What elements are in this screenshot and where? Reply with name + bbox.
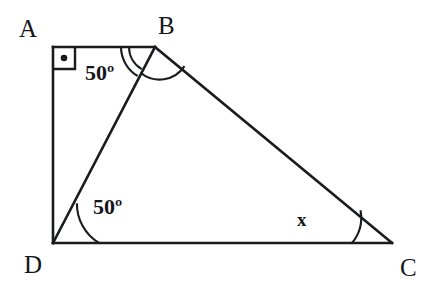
angle-arc-dbc (141, 66, 185, 79)
angle-arc-abd (121, 47, 142, 76)
segment-bc (155, 47, 392, 243)
vertex-label-a: A (19, 16, 37, 41)
angle-label-bcd: x (297, 210, 307, 229)
geometry-figure: A B C D 50º 50º x (0, 0, 438, 298)
angle-label-bdc: 50º (93, 196, 122, 218)
vertex-label-d: D (24, 252, 42, 277)
vertex-label-b: B (158, 13, 175, 38)
vertex-label-c: C (400, 255, 417, 280)
right-angle-dot-icon (61, 55, 68, 62)
angle-label-abd: 50º (85, 62, 114, 84)
figure-canvas (0, 0, 438, 298)
right-angle-marker-a (53, 47, 75, 69)
